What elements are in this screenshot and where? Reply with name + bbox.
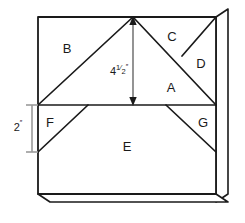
region-label-c: C xyxy=(167,29,176,44)
technical-drawing: 41⁄2″ 2″ B C D A F G E xyxy=(0,0,245,223)
region-label-g: G xyxy=(198,115,208,130)
region-label-f: F xyxy=(46,115,54,130)
region-label-a: A xyxy=(167,80,176,95)
wall-unit: ″ xyxy=(20,119,23,126)
bottom-depth-face xyxy=(38,194,228,202)
wall-height-dimension: 2″ xyxy=(14,105,38,152)
drawing-canvas: 41⁄2″ 2″ B C D A F G E xyxy=(0,0,245,223)
region-label-b: B xyxy=(63,41,72,56)
region-label-d: D xyxy=(196,56,205,71)
right-depth-face xyxy=(216,9,228,202)
wall-dimension-label: 2″ xyxy=(14,119,23,133)
region-label-e: E xyxy=(123,139,132,154)
